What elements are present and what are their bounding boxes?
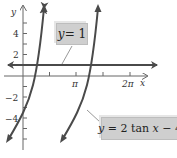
label-y-equals-1: y = 1 <box>56 23 88 45</box>
leader-y1 <box>62 46 72 64</box>
arrow-up-right <box>95 4 102 12</box>
box2-rest: = 2 tan <box>104 122 152 135</box>
y-ticks <box>23 23 27 139</box>
box1-rest: = 1 <box>65 27 87 41</box>
arrow-up-left <box>41 4 48 12</box>
tick-label-2: 2 <box>13 50 19 60</box>
leader-tan <box>87 110 100 122</box>
arrow-down-left <box>6 134 13 143</box>
tick-label-2pi: 2π <box>121 79 135 89</box>
tick-label-neg4: −4 <box>5 114 19 124</box>
tick-label-neg2: −2 <box>5 93 18 103</box>
x-axis-label: x <box>140 78 145 88</box>
label-tan-equation: y = 2 tan x − 4 <box>101 117 177 140</box>
tick-label-pi: π <box>71 79 79 89</box>
box2-end: − 4 <box>159 122 177 135</box>
box1-var: y <box>58 27 65 41</box>
tick-label-4: 4 <box>13 29 19 39</box>
y-axis-label: y <box>10 7 17 17</box>
arrow-down-right <box>60 134 67 143</box>
